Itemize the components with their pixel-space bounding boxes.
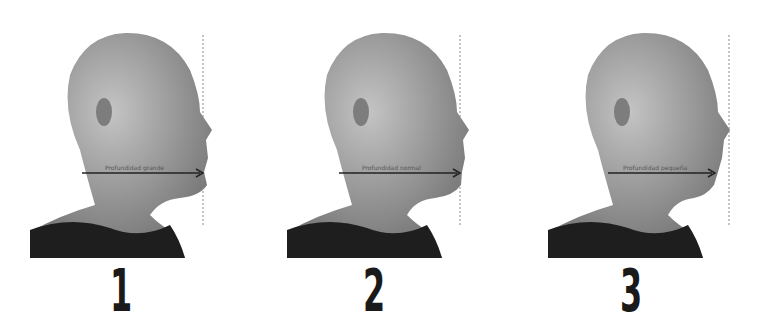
- figure-number-3: 3: [620, 262, 642, 320]
- depth-label-1: Profundidad grande: [105, 164, 164, 171]
- depth-label-2: Profundidad normal: [362, 164, 421, 171]
- depth-label-3: Profundidad pequeña: [623, 164, 687, 171]
- figure-number-2: 2: [363, 262, 385, 320]
- profile-panel-3: Profundidad pequeña 3: [510, 0, 765, 335]
- profile-panel-2: Profundidad normal 2: [255, 0, 510, 335]
- figure-number-1: 1: [110, 262, 132, 320]
- profile-panel-1: Profundidad grande 1: [0, 0, 255, 335]
